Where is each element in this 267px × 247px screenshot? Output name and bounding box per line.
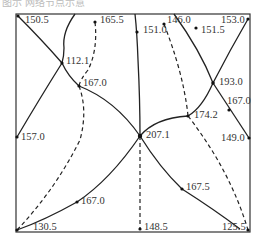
node-label-165-5: 165.5 xyxy=(100,15,124,26)
dashed-146.0-174.2 xyxy=(164,24,188,116)
edge-193.0-149.0 xyxy=(213,83,249,138)
node-label-167-0-c: 167.0 xyxy=(81,196,105,207)
node-dot xyxy=(135,30,138,33)
node-dot xyxy=(138,134,142,138)
edge-167.0-207.1 xyxy=(79,86,140,136)
node-label-150-5: 150.5 xyxy=(25,15,49,26)
node-label-151-5: 151.5 xyxy=(201,25,225,36)
node-dot xyxy=(180,187,183,190)
dashed-167.0-130.5 xyxy=(17,86,84,230)
diagram-canvas: 图示 网络节点示意 xyxy=(0,0,267,247)
node-label-125-5: 125.5 xyxy=(222,222,246,233)
node-dot xyxy=(93,20,96,23)
node-label-174-2: 174.2 xyxy=(194,110,218,121)
node-dot xyxy=(60,61,63,64)
node-dot xyxy=(138,227,141,230)
node-label-148-5: 148.5 xyxy=(144,222,168,233)
node-label-157-0: 157.0 xyxy=(21,132,45,143)
node-label-207-1: 207.1 xyxy=(146,130,170,141)
node-dot xyxy=(211,81,215,85)
edge-207.1-167.5 xyxy=(140,136,182,189)
node-dot xyxy=(75,200,78,203)
node-label-193-0: 193.0 xyxy=(219,77,243,88)
node-label-153-0: 153.0 xyxy=(221,15,245,26)
node-label-167-5: 167.5 xyxy=(186,182,210,193)
node-dot xyxy=(227,108,230,111)
node-dot xyxy=(246,17,249,20)
node-label-151-0: 151.0 xyxy=(143,25,167,36)
node-dot xyxy=(246,228,249,231)
node-dot xyxy=(16,14,19,17)
node-dot xyxy=(15,135,18,138)
node-dot xyxy=(247,136,250,139)
node-dot xyxy=(77,84,80,87)
edge-112.1-157.0 xyxy=(17,63,62,137)
node-label-130-5: 130.5 xyxy=(33,222,57,233)
node-label-112-1: 112.1 xyxy=(66,56,89,67)
network-diagram xyxy=(0,0,267,247)
node-dot xyxy=(15,228,18,231)
node-dot xyxy=(194,26,197,29)
node-label-167-0-a: 167.0 xyxy=(83,78,107,89)
node-label-146-0: 146.0 xyxy=(167,15,191,26)
edge-207.1-167.0 xyxy=(77,136,140,202)
node-label-167-0-b: 167.0 xyxy=(227,96,251,107)
node-dot xyxy=(186,114,189,117)
diagram-frame xyxy=(16,14,250,232)
node-label-149-0: 149.0 xyxy=(221,133,245,144)
